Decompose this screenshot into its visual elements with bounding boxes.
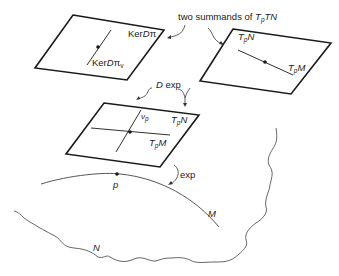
mid-tpm-M: M bbox=[158, 137, 166, 148]
middle-point bbox=[128, 130, 132, 134]
label-tpm: TpM bbox=[288, 63, 305, 75]
diagram-canvas: two summands of TpTN KerDπ KerDπv TpN Tp… bbox=[0, 0, 339, 276]
ker-pi: π bbox=[150, 28, 157, 39]
label-mid-tpn: TpN bbox=[171, 115, 187, 127]
exp-arrow bbox=[171, 165, 178, 184]
label-ker-dpi: KerDπ bbox=[128, 29, 156, 39]
exp-arrowhead bbox=[168, 181, 173, 185]
kerv-D: D bbox=[107, 57, 114, 68]
dexp-arrow-left bbox=[138, 88, 152, 99]
tpm-M: M bbox=[297, 62, 305, 73]
ker-text: Ker bbox=[128, 28, 143, 39]
tpn-N: N bbox=[247, 31, 254, 42]
label-tpn: TpN bbox=[238, 32, 254, 44]
arrow-to-tpn bbox=[208, 28, 222, 44]
title-text: two summands of bbox=[178, 11, 255, 22]
kerv-sub: v bbox=[120, 62, 123, 69]
label-mid-tpm: TpM bbox=[149, 138, 166, 150]
ker-D: D bbox=[143, 28, 150, 39]
arrowhead-ker bbox=[167, 35, 171, 39]
dexp-arrowhead-left bbox=[136, 96, 140, 100]
label-point-p: p bbox=[113, 180, 118, 190]
dexp-arrowhead-right bbox=[183, 103, 187, 107]
label-exp: exp bbox=[180, 170, 195, 180]
tpn-point bbox=[263, 60, 267, 64]
boundary-N bbox=[14, 128, 277, 263]
middle-nu-line bbox=[116, 110, 141, 152]
dexp-arrow-right-tail bbox=[185, 88, 190, 98]
point-p bbox=[115, 172, 119, 176]
label-dexp: D exp bbox=[156, 80, 181, 90]
dexp-D: D bbox=[156, 79, 163, 90]
mid-tpn-N: N bbox=[180, 114, 187, 125]
label-manifold-M: M bbox=[208, 209, 216, 219]
nu-sub: p bbox=[145, 115, 149, 122]
ker-dpi-point bbox=[96, 45, 100, 49]
label-manifold-N: N bbox=[93, 243, 100, 253]
label-nu-p: νp bbox=[141, 113, 149, 123]
diagram-drawing bbox=[0, 0, 339, 276]
label-ker-dpi-v: KerDπv bbox=[92, 58, 123, 70]
plane-middle bbox=[66, 103, 199, 167]
dexp-arrow-right bbox=[178, 89, 185, 104]
dexp-exp: exp bbox=[163, 79, 181, 90]
title-math-TN: TN bbox=[265, 11, 278, 22]
kerv-text: Ker bbox=[92, 57, 107, 68]
curve-M bbox=[41, 173, 219, 227]
diagram-title: two summands of TpTN bbox=[178, 12, 277, 24]
